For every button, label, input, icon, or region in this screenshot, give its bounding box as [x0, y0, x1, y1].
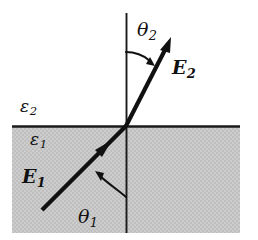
- field-E2-symbol: E: [172, 56, 186, 78]
- theta-2-label: θ2: [137, 20, 157, 39]
- theta2-arc: [126, 52, 150, 61]
- epsilon-2-symbol: ε: [20, 96, 29, 116]
- epsilon-2-subscript: 2: [30, 104, 38, 118]
- refracted-ray-arrowhead: [160, 37, 171, 53]
- field-E1-symbol: E: [22, 165, 36, 187]
- theta-2-symbol: θ: [137, 18, 148, 40]
- field-E1-subscript: 1: [37, 175, 46, 190]
- theta-2-subscript: 2: [149, 28, 157, 43]
- field-E2-label: E2: [172, 58, 195, 77]
- diagram-canvas: [0, 0, 258, 240]
- theta-1-label: θ1: [78, 207, 98, 226]
- field-E2-subscript: 2: [187, 66, 196, 81]
- theta-1-subscript: 1: [90, 215, 98, 230]
- epsilon-2-label: ε2: [20, 98, 37, 115]
- theta-1-symbol: θ: [78, 205, 89, 227]
- epsilon-1-label: ε1: [30, 131, 47, 148]
- refraction-diagram: ε2 ε1 θ2 θ1 E2 E1: [0, 0, 258, 240]
- epsilon-1-symbol: ε: [30, 129, 39, 149]
- field-E1-label: E1: [22, 167, 45, 186]
- epsilon-1-subscript: 1: [40, 137, 48, 151]
- refracted-ray-E2: [126, 44, 168, 126]
